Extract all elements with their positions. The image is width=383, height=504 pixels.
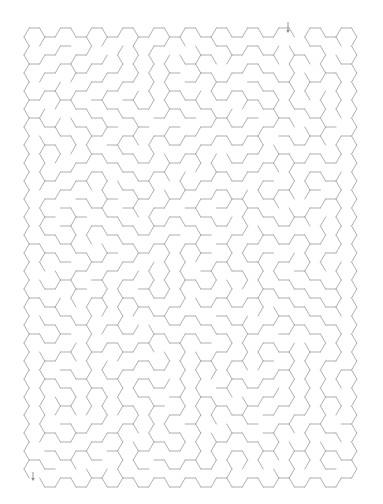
maze-walls [24,28,357,487]
maze-board [0,0,383,504]
exit-arrow-icon [31,472,35,481]
entrance-arrow-icon [286,22,290,33]
